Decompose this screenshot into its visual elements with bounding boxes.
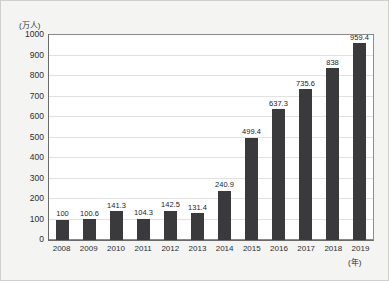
bar[interactable] [83,219,96,240]
bar[interactable] [272,109,285,240]
bar-value-label: 131.4 [188,204,207,212]
y-axis-tick-label: 500 [30,132,44,142]
x-axis-tick-label: 2018 [320,244,347,253]
bar-slot: 141.3 [103,35,130,240]
bar-slot: 104.3 [130,35,157,240]
y-axis-tick-label: 600 [30,111,44,121]
x-axis-tick-label: 2010 [102,244,129,253]
bar-slot: 499.4 [238,35,265,240]
y-axis-tick-label: 900 [30,50,44,60]
bar[interactable] [191,213,204,240]
bar-value-label: 104.3 [134,209,153,217]
x-axis-tick-label: 2017 [293,244,320,253]
y-axis-tick-label: 800 [30,70,44,80]
bar-value-label: 959.4 [350,34,369,42]
bar-slot: 100 [49,35,76,240]
bar-value-label: 100.6 [80,210,99,218]
bar-value-label: 499.4 [242,128,261,136]
y-axis-tick-label: 0 [39,234,44,244]
bar-value-label: 240.9 [215,181,234,189]
y-axis-tick-label: 300 [30,173,44,183]
bar-value-label: 100 [56,210,69,218]
bar[interactable] [353,43,366,240]
bar-value-label: 141.3 [107,202,126,210]
x-axis-tick-label: 2019 [347,244,374,253]
x-axis-tick-label: 2015 [238,244,265,253]
bar[interactable] [245,138,258,240]
x-axis-tick-label: 2011 [130,244,157,253]
bar-slot: 637.3 [265,35,292,240]
bar[interactable] [218,191,231,240]
bar-value-label: 838 [326,59,339,67]
x-axis-tick-label: 2014 [211,244,238,253]
x-axis-unit-label: (年) [348,256,361,267]
y-axis-tick-label: 400 [30,152,44,162]
bar-series: 100100.6141.3104.3142.5131.4240.9499.463… [49,35,373,240]
plot-area: 01002003004005006007008009001000 100100.… [48,34,374,241]
bar-chart-figure: (万人) 01002003004005006007008009001000 10… [0,0,389,281]
bar-slot: 735.6 [292,35,319,240]
bar[interactable] [299,89,312,240]
x-axis-tick-label: 2016 [265,244,292,253]
bar-slot: 959.4 [346,35,373,240]
x-axis-tick-label: 2012 [157,244,184,253]
bar-slot: 100.6 [76,35,103,240]
bar-value-label: 142.5 [161,201,180,209]
bar[interactable] [137,219,150,240]
bar-slot: 142.5 [157,35,184,240]
x-axis-tick-label: 2008 [48,244,75,253]
bar[interactable] [326,68,339,240]
y-axis-tick-label: 1000 [25,29,44,39]
bar-slot: 131.4 [184,35,211,240]
x-axis-tick-label: 2013 [184,244,211,253]
bar[interactable] [56,220,69,241]
bar-slot: 240.9 [211,35,238,240]
bar[interactable] [110,211,123,240]
bar-value-label: 637.3 [269,100,288,108]
y-axis-tick-label: 700 [30,91,44,101]
bar-value-label: 735.6 [296,80,315,88]
x-axis-tick-labels: 2008200920102011201220132014201520162017… [48,244,374,253]
bar-slot: 838 [319,35,346,240]
y-axis-tick-label: 100 [30,214,44,224]
bar[interactable] [164,211,177,240]
y-axis-tick-label: 200 [30,193,44,203]
x-axis-tick-label: 2009 [75,244,102,253]
